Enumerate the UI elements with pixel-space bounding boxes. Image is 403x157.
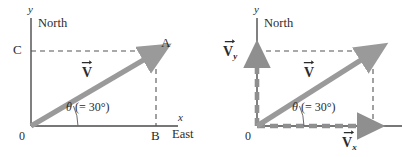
x-axis-label: x — [178, 112, 183, 123]
origin-label-left: 0 — [19, 130, 25, 142]
component-subscript: y — [233, 51, 237, 61]
origin-label-right: 0 — [245, 130, 251, 142]
point-label-b: B — [151, 129, 160, 142]
angle-label-theta-left: θ (= 30°) — [66, 101, 109, 113]
vector-symbol-v: V — [304, 64, 314, 80]
component-symbol-vy: Vy — [223, 43, 237, 61]
north-label: North — [38, 17, 67, 30]
right-panel-drawing — [201, 0, 402, 157]
east-label: East — [172, 128, 194, 141]
panel-vector-with-components: y North 0 Vy Vx — [201, 0, 402, 157]
theta-value: (= 30°) — [75, 100, 110, 114]
theta-value: (= 30°) — [301, 100, 336, 114]
component-symbol-letter: V — [223, 44, 233, 59]
point-label-c: C — [13, 43, 22, 56]
point-label-a: A — [161, 36, 170, 49]
component-symbol-letter: V — [342, 135, 352, 150]
y-axis-label: y — [28, 4, 33, 15]
y-axis-label: y — [254, 4, 259, 15]
angle-label-theta-right: θ (= 30°) — [292, 101, 335, 113]
left-panel-drawing — [0, 0, 201, 157]
component-symbol-vx: Vx — [342, 134, 357, 152]
north-label: North — [264, 17, 293, 30]
vector-symbol-letter: V — [304, 65, 314, 80]
vector-symbol-v: V — [82, 64, 92, 80]
vector-symbol-letter: V — [82, 65, 92, 80]
vector-figure: y North C A B x East 0 V θ (= 30°) — [0, 0, 403, 157]
component-subscript: x — [352, 142, 357, 152]
panel-vector-with-construction-lines: y North C A B x East 0 V θ (= 30°) — [0, 0, 201, 157]
